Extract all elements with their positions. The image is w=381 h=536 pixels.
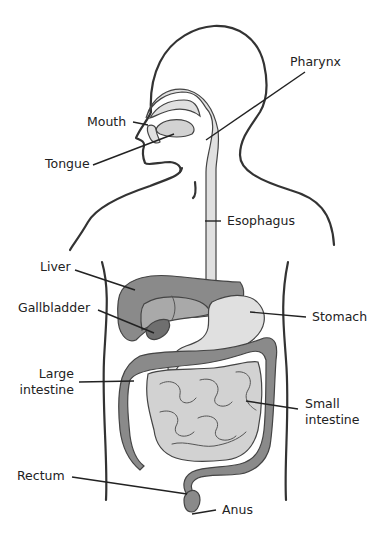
small-intestine [147,362,262,462]
label-rectum: Rectum [17,468,65,484]
label-anus: Anus [222,502,253,518]
label-small-intestine-line2: intestine [305,412,360,428]
label-small-intestine-line1: Small [305,396,360,412]
label-large-intestine-line2: intestine [18,382,74,398]
label-mouth: Mouth [87,114,126,130]
label-esophagus: Esophagus [227,213,295,229]
label-stomach: Stomach [312,309,367,325]
label-large-intestine-line1: Large [18,366,74,382]
label-tongue: Tongue [45,156,90,172]
label-small-intestine: Small intestine [305,396,360,428]
label-pharynx: Pharynx [290,54,341,70]
label-liver: Liver [40,259,71,275]
label-gallbladder: Gallbladder [18,300,90,316]
pharynx-esophagus [146,89,222,306]
label-large-intestine: Large intestine [18,366,74,398]
